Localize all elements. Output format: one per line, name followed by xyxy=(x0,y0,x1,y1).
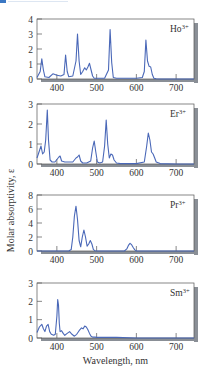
panel-shadow xyxy=(194,199,198,255)
x-tick-label: 600 xyxy=(129,342,144,352)
panel-sm: 0123400500600700Sm3+ xyxy=(28,279,198,353)
y-tick-label: 0 xyxy=(28,247,33,257)
y-tick-label: 2 xyxy=(28,297,33,307)
x-tick-label: 500 xyxy=(89,83,104,93)
x-tick-label: 700 xyxy=(169,168,184,178)
panel-shadow xyxy=(194,108,198,168)
y-tick-label: 8 xyxy=(28,191,33,201)
panel-ho: 01234400500600700Ho3+ xyxy=(28,15,198,94)
x-tick-label: 700 xyxy=(169,255,184,265)
y-tick-label: 0 xyxy=(28,75,33,85)
y-tick-label: 2 xyxy=(28,120,33,130)
y-tick-label: 1 xyxy=(28,315,33,325)
x-tick-label: 600 xyxy=(129,83,144,93)
x-tick-label: 400 xyxy=(50,168,65,178)
y-tick-label: 3 xyxy=(28,100,33,110)
x-tick-label: 400 xyxy=(50,255,65,265)
x-tick-label: 400 xyxy=(50,342,65,352)
panel-shadow xyxy=(194,23,198,83)
x-tick-label: 400 xyxy=(50,83,65,93)
y-tick-label: 3 xyxy=(28,279,33,289)
x-tick-label: 600 xyxy=(129,168,144,178)
y-tick-label: 2 xyxy=(28,233,33,243)
x-tick-label: 700 xyxy=(169,83,184,93)
y-tick-label: 1 xyxy=(28,140,33,150)
x-tick-label: 500 xyxy=(89,168,104,178)
y-tick-label: 3 xyxy=(28,30,33,40)
x-tick-label: 500 xyxy=(89,255,104,265)
panel-pr: 02468400500600700Pr3+ xyxy=(28,191,198,266)
panel-shadow xyxy=(194,287,198,342)
y-tick-label: 6 xyxy=(28,205,33,215)
y-tick-label: 4 xyxy=(28,15,33,25)
x-tick-label: 600 xyxy=(129,255,144,265)
y-tick-label: 0 xyxy=(28,334,33,344)
spectra-figure: 01234400500600700Ho3+0123400500600700Er3… xyxy=(0,0,210,371)
y-tick-label: 1 xyxy=(28,60,33,70)
panel-er: 0123400500600700Er3+ xyxy=(28,100,198,179)
y-tick-label: 0 xyxy=(28,160,33,170)
y-tick-label: 2 xyxy=(28,45,33,55)
x-tick-label: 500 xyxy=(89,342,104,352)
x-tick-label: 700 xyxy=(169,342,184,352)
y-tick-label: 4 xyxy=(28,219,33,229)
